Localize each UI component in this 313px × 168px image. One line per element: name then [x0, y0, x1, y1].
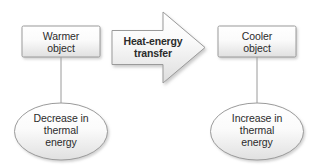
heat-energy-transfer-arrow — [112, 12, 205, 83]
diagram-shapes — [0, 0, 313, 168]
diagram-canvas: Warmer object Cooler object Heat-energy … — [0, 0, 313, 168]
increase-thermal-energy-ellipse — [211, 103, 304, 160]
warmer-object-box — [22, 26, 100, 57]
decrease-thermal-energy-ellipse — [15, 103, 108, 160]
cooler-object-box — [218, 26, 296, 57]
